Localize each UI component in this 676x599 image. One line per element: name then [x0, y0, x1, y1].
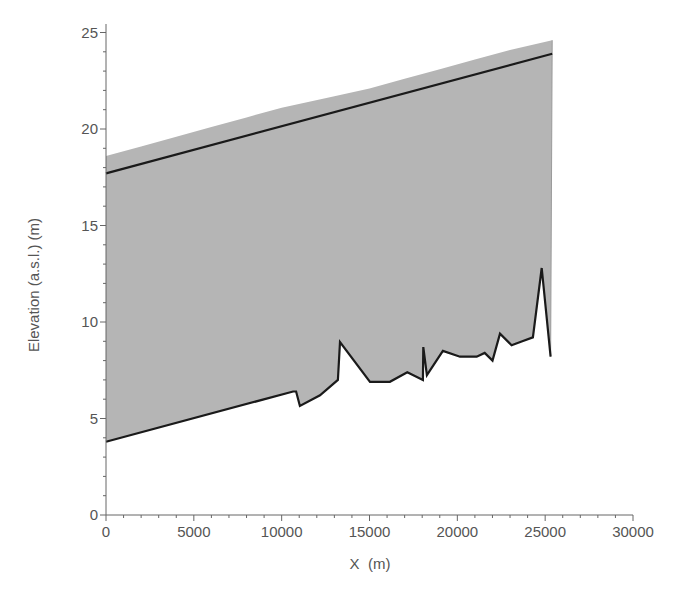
x-tick-label: 10000 — [261, 523, 303, 540]
chart: 050001000015000200002500030000 051015202… — [0, 0, 676, 599]
x-axis-label: X (m) — [350, 555, 391, 572]
elevation-area-fill — [106, 40, 552, 442]
y-tick-label: 25 — [81, 24, 98, 41]
y-axis-tick-labels: 0510152025 — [81, 24, 98, 524]
x-tick-label: 30000 — [612, 523, 654, 540]
x-tick-label: 0 — [102, 523, 110, 540]
x-tick-label: 20000 — [436, 523, 478, 540]
x-tick-label: 15000 — [349, 523, 391, 540]
y-tick-label: 15 — [81, 217, 98, 234]
x-tick-label: 25000 — [524, 523, 566, 540]
y-tick-label: 20 — [81, 120, 98, 137]
y-axis-label: Elevation (a.s.l.) (m) — [25, 218, 42, 352]
y-tick-label: 5 — [90, 410, 98, 427]
x-tick-label: 5000 — [177, 523, 210, 540]
y-tick-label: 10 — [81, 313, 98, 330]
gray-area — [106, 40, 552, 442]
y-tick-label: 0 — [90, 506, 98, 523]
x-axis-tick-labels: 050001000015000200002500030000 — [102, 523, 654, 540]
